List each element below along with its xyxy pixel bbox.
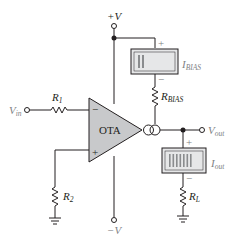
r2-label: R2 bbox=[62, 190, 74, 204]
bias-supply-wire bbox=[114, 38, 155, 48]
output-terminal bbox=[200, 128, 205, 133]
ground-symbol-load bbox=[177, 216, 189, 222]
positive-supply-terminal bbox=[112, 24, 117, 29]
ota-noninverting-input: + bbox=[92, 146, 98, 158]
bias-meter-minus: − bbox=[158, 73, 164, 85]
ground-symbol-r2 bbox=[49, 218, 61, 224]
output-label: Vout bbox=[208, 124, 225, 138]
input-node: Vin bbox=[9, 104, 48, 118]
out-meter-bar bbox=[169, 154, 171, 167]
r2-zigzag bbox=[52, 185, 58, 218]
input-terminal bbox=[25, 108, 30, 113]
r-load-zigzag bbox=[180, 184, 186, 216]
bias-meter-bar bbox=[138, 55, 140, 68]
r-load-label: RL bbox=[188, 190, 200, 204]
bias-meter-bar bbox=[142, 55, 144, 68]
ota-amplifier: OTA − + bbox=[89, 98, 142, 162]
ota-circuit-diagram: +V + − IBIAS RBIAS OTA − + Vout bbox=[0, 0, 237, 247]
ota-inverting-input: − bbox=[92, 103, 98, 115]
bias-current-meter: + − IBIAS bbox=[131, 37, 201, 85]
bias-meter-plus: + bbox=[158, 37, 164, 49]
bias-meter-label: IBIAS bbox=[181, 58, 201, 72]
negative-supply-terminal bbox=[112, 218, 117, 223]
out-meter-bar bbox=[173, 154, 175, 167]
out-meter-bar bbox=[176, 154, 178, 167]
output-node: Vout bbox=[160, 124, 225, 148]
r1-label: R1 bbox=[51, 91, 62, 105]
ota-label: OTA bbox=[99, 124, 121, 136]
current-source bbox=[144, 125, 161, 135]
r1-zigzag bbox=[48, 107, 89, 113]
negative-supply-label: −V bbox=[107, 224, 122, 236]
positive-supply-label: +V bbox=[107, 10, 122, 22]
r-bias-label: RBIAS bbox=[160, 90, 183, 104]
out-meter-bar bbox=[180, 154, 182, 167]
input-label: Vin bbox=[9, 104, 22, 118]
r1-resistor: R1 bbox=[48, 91, 89, 113]
out-meter-minus: − bbox=[186, 172, 192, 184]
r-bias-resistor: RBIAS bbox=[152, 84, 183, 124]
r2-resistor: R2 bbox=[52, 150, 89, 218]
out-meter-plus: + bbox=[186, 136, 192, 148]
r-bias-zigzag bbox=[152, 84, 158, 124]
r-load-resistor: RL bbox=[180, 184, 200, 216]
out-meter-bar bbox=[187, 154, 189, 167]
out-meter-label: Iout bbox=[210, 157, 225, 171]
bias-meter-display bbox=[134, 52, 175, 71]
r2-wire bbox=[55, 150, 89, 185]
negative-supply: −V bbox=[107, 156, 122, 236]
out-meter-bar bbox=[183, 154, 185, 167]
out-meter-bar bbox=[190, 154, 192, 167]
output-current-meter: + − Iout bbox=[162, 136, 225, 184]
